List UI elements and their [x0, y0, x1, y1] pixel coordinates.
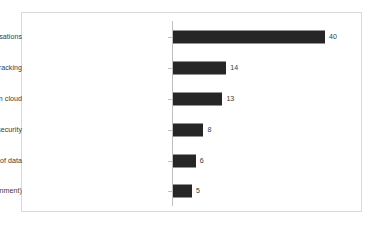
axis-tick [168, 68, 172, 69]
bar-value-label: 14 [230, 64, 238, 72]
category-label-wrap: Always listening to conversations [22, 22, 170, 53]
bar [173, 62, 226, 75]
bar-track: 6 [173, 145, 361, 176]
axis-tick [168, 130, 172, 131]
bar-row: Storage of data in cloud 13 [22, 84, 361, 115]
bar [173, 92, 222, 105]
category-label: Always listening to conversations [0, 33, 22, 41]
plot-area: Always listening to conversations 40 Use… [22, 13, 361, 211]
bar [173, 123, 203, 136]
category-label-wrap: Sharing (public/3rd party/government) [22, 176, 170, 207]
bar-row: Data security 8 [22, 114, 361, 145]
category-label-wrap: User tracking [22, 53, 170, 84]
bar-value-label: 8 [207, 126, 211, 134]
category-label-wrap: Hacking of data [22, 145, 170, 176]
bar-track: 14 [173, 53, 361, 84]
axis-tick [168, 37, 172, 38]
bar-track: 13 [173, 84, 361, 115]
bar-row: Hacking of data 6 [22, 145, 361, 176]
bar [173, 185, 192, 198]
bar-track: 5 [173, 176, 361, 207]
axis-tick [168, 161, 172, 162]
bar-row: Sharing (public/3rd party/government) 5 [22, 176, 361, 207]
category-label: Sharing (public/3rd party/government) [0, 187, 22, 195]
category-label: User tracking [0, 64, 22, 72]
bar-row: Always listening to conversations 40 [22, 22, 361, 53]
axis-tick [168, 99, 172, 100]
axis-tick [168, 191, 172, 192]
bar [173, 154, 196, 167]
bar [173, 31, 325, 44]
category-label: Data security [0, 126, 22, 134]
chart-figure: Always listening to conversations 40 Use… [21, 12, 362, 212]
bar-track: 40 [173, 22, 361, 53]
category-label-wrap: Storage of data in cloud [22, 84, 170, 115]
bar-value-label: 13 [226, 95, 234, 103]
category-label-wrap: Data security [22, 114, 170, 145]
bar-value-label: 6 [200, 157, 204, 165]
bar-track: 8 [173, 114, 361, 145]
bar-value-label: 5 [196, 187, 200, 195]
bar-row: User tracking 14 [22, 53, 361, 84]
category-label: Storage of data in cloud [0, 95, 22, 103]
bar-value-label: 40 [329, 33, 337, 41]
category-label: Hacking of data [0, 157, 22, 165]
